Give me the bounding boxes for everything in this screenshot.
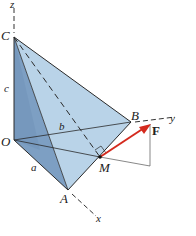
label-O: O [1,134,11,149]
x-axis [72,194,96,216]
label-x-axis: x [95,212,101,224]
y-axis [135,117,175,122]
label-B: B [131,108,139,123]
force-arrowhead [139,124,151,134]
label-a: a [31,161,37,173]
label-F: F [152,123,160,138]
label-C: C [1,28,10,43]
label-z-axis: z [9,0,15,10]
label-c: c [4,82,9,94]
label-b: b [59,120,65,132]
label-y-axis: y [169,112,175,124]
label-A: A [59,191,68,206]
tetrahedron-diagram: z C c O b a B y F M A x [0,0,196,236]
point-M [98,155,102,159]
label-M: M [98,160,111,175]
